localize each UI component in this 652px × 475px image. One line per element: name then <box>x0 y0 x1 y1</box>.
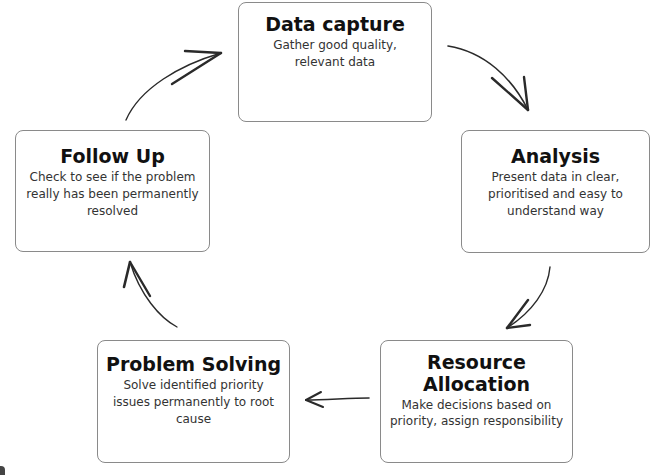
corner-mark <box>0 466 5 475</box>
step-resource-allocation: Resource Allocation Make decisions based… <box>380 340 573 463</box>
step-title: Problem Solving <box>102 353 285 375</box>
step-description: Make decisions based on priority, assign… <box>387 397 566 429</box>
step-data-capture: Data capture Gather good quality, releva… <box>238 2 432 122</box>
step-analysis: Analysis Present data in clear, prioriti… <box>461 130 650 253</box>
arrow-data-capture-to-analysis <box>448 46 528 110</box>
step-description: Solve identified priority issues permane… <box>104 377 283 428</box>
step-title: Analysis <box>466 145 645 167</box>
step-title: Data capture <box>243 13 427 35</box>
step-description: Present data in clear, prioritised and e… <box>468 169 643 220</box>
arrow-resource-to-problem-solving <box>306 392 369 407</box>
step-follow-up: Follow Up Check to see if the problem re… <box>15 130 210 252</box>
arrow-problem-solving-to-follow-up <box>124 262 177 327</box>
step-title: Follow Up <box>20 145 205 167</box>
step-title: Resource Allocation <box>421 351 532 395</box>
step-description: Check to see if the problem really has b… <box>20 169 205 220</box>
step-problem-solving: Problem Solving Solve identified priorit… <box>97 340 290 463</box>
arrow-analysis-to-resource-allocation <box>507 267 550 328</box>
arrow-follow-up-to-data-capture <box>126 51 221 120</box>
step-description: Gather good quality, relevant data <box>267 37 403 71</box>
